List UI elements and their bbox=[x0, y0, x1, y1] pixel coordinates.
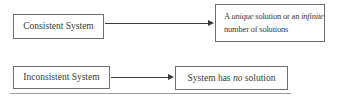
consistent-arrow-line bbox=[105, 23, 208, 24]
consistent-result-line-1: A unique solution or an infinite bbox=[224, 10, 322, 23]
consistent-result-line-2: number of solutions bbox=[224, 23, 322, 36]
flowchart-canvas: Consistent System A unique solution or a… bbox=[0, 0, 338, 102]
no-solution-pre: System has bbox=[188, 73, 233, 83]
consistent-arrow-head-icon bbox=[208, 20, 214, 26]
inconsistent-system-box: Inconsistent System bbox=[13, 66, 110, 89]
no-solution-italic: no bbox=[233, 73, 243, 83]
result-text-unique: unique bbox=[231, 11, 253, 21]
no-solution-post: solution bbox=[242, 73, 275, 83]
consistent-system-box: Consistent System bbox=[13, 14, 104, 39]
consistent-result-box: A unique solution or an infinite number … bbox=[215, 4, 325, 42]
result-text-line2: number of solutions bbox=[224, 24, 288, 34]
result-text-infinite: infinite bbox=[301, 11, 323, 21]
result-text-mid: solution or an bbox=[253, 11, 301, 21]
inconsistent-arrow-line bbox=[111, 77, 168, 78]
inconsistent-result-box: System has no solution bbox=[175, 66, 288, 90]
bottom-rule-divider bbox=[10, 93, 291, 94]
inconsistent-result-text: System has no solution bbox=[188, 72, 276, 85]
inconsistent-arrow-head-icon bbox=[168, 74, 174, 80]
inconsistent-system-label: Inconsistent System bbox=[23, 71, 99, 84]
consistent-system-label: Consistent System bbox=[23, 20, 93, 33]
